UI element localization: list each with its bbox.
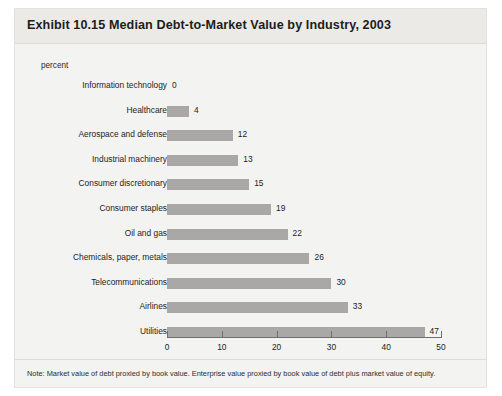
bar-value-label: 13 <box>243 154 252 164</box>
bar-value-label: 4 <box>194 105 199 115</box>
bar-row: Consumer staples19 <box>15 200 488 222</box>
x-axis-tick <box>386 331 387 337</box>
x-axis-tick <box>222 331 223 337</box>
bar <box>167 179 249 190</box>
bar <box>167 155 238 166</box>
bar-row: Information technology0 <box>15 77 488 99</box>
bar-row: Consumer discretionary15 <box>15 175 488 197</box>
x-axis-tick-label: 50 <box>436 342 445 352</box>
x-axis-tick-label: 30 <box>327 342 336 352</box>
category-label: Utilities <box>140 326 167 336</box>
bar-value-label: 0 <box>172 80 177 90</box>
x-axis-tick-label: 20 <box>272 342 281 352</box>
x-axis-tick-label: 10 <box>217 342 226 352</box>
category-label: Airlines <box>140 301 167 311</box>
chart-note: Note: Market value of debt proxied by bo… <box>27 369 435 378</box>
category-label: Telecommunications <box>91 277 167 287</box>
bar <box>167 278 331 289</box>
category-label: Consumer staples <box>100 203 168 213</box>
category-label: Aerospace and defense <box>79 129 167 139</box>
bar <box>167 204 271 215</box>
x-axis-tick-label: 0 <box>165 342 170 352</box>
bar <box>167 253 309 264</box>
bar-row: Utilities47 <box>15 323 488 345</box>
exhibit-card: Exhibit 10.15 Median Debt-to-Market Valu… <box>14 8 487 388</box>
bar-row: Chemicals, paper, metals26 <box>15 249 488 271</box>
category-label: Oil and gas <box>125 228 167 238</box>
bar-row: Healthcare4 <box>15 102 488 124</box>
category-label: Healthcare <box>126 105 167 115</box>
bar <box>167 106 189 117</box>
bar <box>167 130 233 141</box>
bar-value-label: 19 <box>276 203 285 213</box>
x-axis-line <box>167 337 441 338</box>
bar-row: Airlines33 <box>15 298 488 320</box>
category-label: Industrial machinery <box>92 154 167 164</box>
x-axis-tick <box>167 331 168 338</box>
x-axis-tick-label: 40 <box>382 342 391 352</box>
bar-value-label: 12 <box>238 129 247 139</box>
bar-value-label: 30 <box>336 277 345 287</box>
category-label: Information technology <box>82 80 167 90</box>
note-divider <box>15 359 486 360</box>
bar-value-label: 26 <box>314 252 323 262</box>
category-label: Chemicals, paper, metals <box>73 252 167 262</box>
bar-value-label: 15 <box>254 178 263 188</box>
x-axis-tick <box>331 331 332 337</box>
x-axis-tick <box>441 331 442 338</box>
bar-row: Telecommunications30 <box>15 274 488 296</box>
bar-row: Aerospace and defense12 <box>15 126 488 148</box>
bar-row: Oil and gas22 <box>15 225 488 247</box>
bar-value-label: 22 <box>293 228 302 238</box>
bar <box>167 229 288 240</box>
x-axis-tick <box>277 331 278 337</box>
chart-page: Exhibit 10.15 Median Debt-to-Market Valu… <box>0 0 502 396</box>
category-label: Consumer discretionary <box>79 178 167 188</box>
bar-value-label: 47 <box>430 326 439 336</box>
bar <box>167 302 348 313</box>
bar-row: Industrial machinery13 <box>15 151 488 173</box>
bar-chart-plot: Information technology0Healthcare4Aerosp… <box>15 9 488 389</box>
bar-value-label: 33 <box>353 301 362 311</box>
